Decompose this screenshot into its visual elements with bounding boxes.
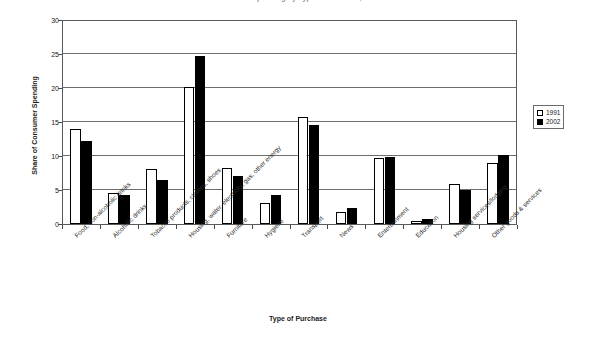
bar-2002 xyxy=(81,141,92,224)
category-label: News xyxy=(338,223,354,239)
x-tick-mark xyxy=(479,225,480,229)
legend-swatch-1991-icon xyxy=(537,110,543,116)
bar-1991 xyxy=(374,158,385,224)
bar-1991 xyxy=(70,129,81,224)
bar-2002 xyxy=(195,56,206,224)
bar-1991 xyxy=(336,212,347,224)
legend-item-1991: 1991 xyxy=(537,108,560,117)
x-tick-mark xyxy=(403,225,404,229)
bar-group xyxy=(290,20,328,224)
y-tick-label: 15 xyxy=(33,119,59,126)
x-tick-mark xyxy=(327,225,328,229)
bar-chart: Share of Consumer Spending by Type of Pu… xyxy=(0,0,596,361)
bar-1991 xyxy=(449,184,460,224)
x-tick-mark xyxy=(138,225,139,229)
chart-title: Share of Consumer Spending by Type of Pu… xyxy=(0,0,596,3)
bar-2002 xyxy=(309,125,320,224)
y-tick-label: 25 xyxy=(33,51,59,58)
bar-group xyxy=(403,20,441,224)
y-tick-label: 30 xyxy=(33,17,59,24)
bar-2002 xyxy=(347,208,358,224)
y-tick-label: 10 xyxy=(33,153,59,160)
legend-item-2002: 2002 xyxy=(537,117,560,126)
x-tick-mark xyxy=(252,225,253,229)
x-tick-mark xyxy=(214,225,215,229)
x-tick-mark xyxy=(100,225,101,229)
legend-swatch-2002-icon xyxy=(537,119,543,125)
x-tick-mark xyxy=(365,225,366,229)
y-tick-label: 0 xyxy=(33,221,59,228)
bar-1991 xyxy=(146,169,157,224)
legend-label-1991: 1991 xyxy=(546,109,560,116)
x-tick-mark xyxy=(176,225,177,229)
bar-1991 xyxy=(411,221,422,224)
x-tick-mark xyxy=(290,225,291,229)
bar-1991 xyxy=(260,203,271,224)
legend-label-2002: 2002 xyxy=(546,118,560,125)
bars-layer xyxy=(62,20,517,224)
x-tick-mark xyxy=(441,225,442,229)
x-tick-mark xyxy=(517,225,518,229)
bar-group xyxy=(327,20,365,224)
bar-group xyxy=(441,20,479,224)
legend: 1991 2002 xyxy=(533,105,564,129)
x-axis-title: Type of Purchase xyxy=(0,315,596,322)
bar-group xyxy=(62,20,100,224)
bar-group xyxy=(138,20,176,224)
x-tick-mark xyxy=(62,225,63,229)
bar-group xyxy=(252,20,290,224)
bar-1991 xyxy=(298,117,309,224)
bar-2002 xyxy=(385,157,396,224)
y-tick-label: 5 xyxy=(33,187,59,194)
bar-group xyxy=(365,20,403,224)
y-tick-label: 20 xyxy=(33,85,59,92)
